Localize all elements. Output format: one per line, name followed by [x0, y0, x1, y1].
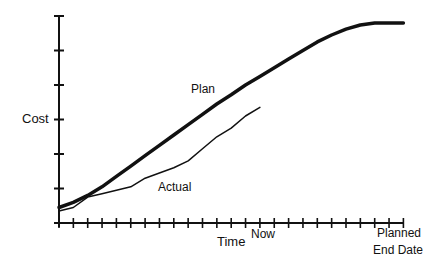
axes [54, 16, 403, 228]
plan-line [59, 23, 403, 208]
now-marker-label: Now [251, 228, 275, 241]
y-axis-label: Cost [22, 112, 49, 125]
actual-series-label: Actual [158, 181, 191, 194]
x-axis-label: Time [217, 235, 245, 248]
cost-time-chart [0, 0, 441, 269]
plan-series-label: Plan [191, 83, 215, 96]
planned-end-label-2: End Date [373, 244, 423, 257]
planned-end-label-1: Planned [377, 227, 421, 240]
series [59, 23, 403, 211]
